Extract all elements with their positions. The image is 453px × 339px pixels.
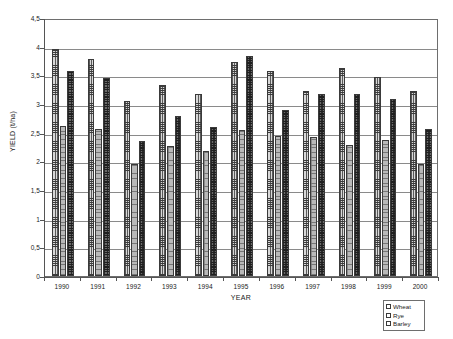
y-axis-tick bbox=[40, 19, 45, 20]
bar-rye-1993 bbox=[167, 146, 174, 276]
legend: WheatRyeBarley bbox=[383, 300, 425, 331]
bar-barley-1992 bbox=[139, 141, 146, 276]
bar-wheat-2000 bbox=[410, 91, 417, 276]
bar-barley-1995 bbox=[246, 56, 253, 276]
legend-swatch-wheat-icon bbox=[386, 304, 391, 309]
y-axis-tick bbox=[40, 76, 45, 77]
legend-item-rye: Rye bbox=[386, 311, 422, 320]
bar-wheat-1992 bbox=[124, 101, 131, 276]
bar-rye-2000 bbox=[418, 164, 425, 276]
y-axis-tick-label: 1,5 bbox=[16, 187, 40, 194]
y-axis-tick bbox=[40, 134, 45, 135]
bar-rye-1997 bbox=[310, 137, 317, 276]
bar-rye-1990 bbox=[60, 126, 67, 276]
x-axis-tick bbox=[402, 277, 403, 281]
legend-item-barley: Barley bbox=[386, 320, 422, 329]
bar-rye-1992 bbox=[131, 164, 138, 276]
bar-wheat-1991 bbox=[88, 59, 95, 276]
yield-bar-chart: 00,511,522,533,544,5 YIELD (t/ha) 199019… bbox=[0, 0, 453, 339]
x-axis-tick bbox=[116, 277, 117, 281]
bar-rye-1995 bbox=[239, 130, 246, 276]
bar-barley-1996 bbox=[282, 110, 289, 276]
x-axis-tick bbox=[44, 277, 45, 281]
bar-rye-1996 bbox=[275, 136, 282, 276]
plot-area bbox=[44, 19, 438, 277]
y-axis-tick bbox=[40, 220, 45, 221]
bar-wheat-1993 bbox=[159, 85, 166, 276]
x-axis-title: YEAR bbox=[44, 294, 438, 301]
y-axis-tick-label: 0,5 bbox=[16, 244, 40, 251]
y-axis-tick-label: 3,5 bbox=[16, 72, 40, 79]
bar-wheat-1994 bbox=[195, 94, 202, 276]
y-axis-tick bbox=[40, 48, 45, 49]
bar-wheat-1995 bbox=[231, 62, 238, 276]
y-axis-tick bbox=[40, 105, 45, 106]
y-axis-tick-label: 2 bbox=[16, 158, 40, 165]
x-axis-tick bbox=[151, 277, 152, 281]
x-axis-tick bbox=[80, 277, 81, 281]
x-axis-tick bbox=[223, 277, 224, 281]
y-axis-tick-label: 0 bbox=[16, 273, 40, 280]
bar-rye-1998 bbox=[346, 145, 353, 276]
bar-wheat-1997 bbox=[303, 91, 310, 276]
legend-label: Barley bbox=[393, 320, 411, 327]
x-axis-line bbox=[44, 277, 438, 278]
y-axis-tick bbox=[40, 248, 45, 249]
bar-wheat-1996 bbox=[267, 71, 274, 276]
bar-rye-1991 bbox=[95, 129, 102, 276]
bar-barley-1998 bbox=[354, 94, 361, 276]
y-axis-tick-label: 1 bbox=[16, 216, 40, 223]
x-axis-tick bbox=[438, 277, 439, 281]
y-axis-tick-label: 4 bbox=[16, 44, 40, 51]
bar-barley-1990 bbox=[67, 71, 74, 276]
legend-swatch-rye-icon bbox=[386, 313, 391, 318]
bar-rye-1994 bbox=[203, 151, 210, 276]
x-axis-tick-label: 2000 bbox=[398, 283, 442, 291]
bar-barley-1994 bbox=[210, 127, 217, 276]
bar-wheat-1998 bbox=[339, 68, 346, 276]
x-axis-tick bbox=[187, 277, 188, 281]
bar-barley-2000 bbox=[425, 129, 432, 276]
y-axis-title: YIELD (t/ha) bbox=[9, 87, 16, 177]
y-axis-tick bbox=[40, 191, 45, 192]
gridline bbox=[45, 49, 437, 50]
legend-item-wheat: Wheat bbox=[386, 303, 422, 312]
y-axis-tick-label: 3 bbox=[16, 101, 40, 108]
x-axis-tick bbox=[259, 277, 260, 281]
legend-swatch-barley-icon bbox=[386, 321, 391, 326]
y-axis-line bbox=[44, 19, 45, 278]
bar-barley-1999 bbox=[390, 99, 397, 276]
x-axis-tick bbox=[366, 277, 367, 281]
y-axis-tick-label: 2,5 bbox=[16, 130, 40, 137]
bar-barley-1993 bbox=[175, 116, 182, 276]
bar-barley-1997 bbox=[318, 94, 325, 276]
legend-label: Rye bbox=[393, 312, 404, 319]
bar-barley-1991 bbox=[103, 78, 110, 276]
bar-rye-1999 bbox=[382, 140, 389, 276]
x-axis-tick bbox=[331, 277, 332, 281]
bar-wheat-1990 bbox=[52, 49, 59, 276]
legend-label: Wheat bbox=[393, 303, 411, 310]
y-axis-tick-label: 4,5 bbox=[16, 15, 40, 22]
x-axis-tick bbox=[295, 277, 296, 281]
bar-wheat-1999 bbox=[374, 77, 381, 276]
y-axis-tick bbox=[40, 162, 45, 163]
